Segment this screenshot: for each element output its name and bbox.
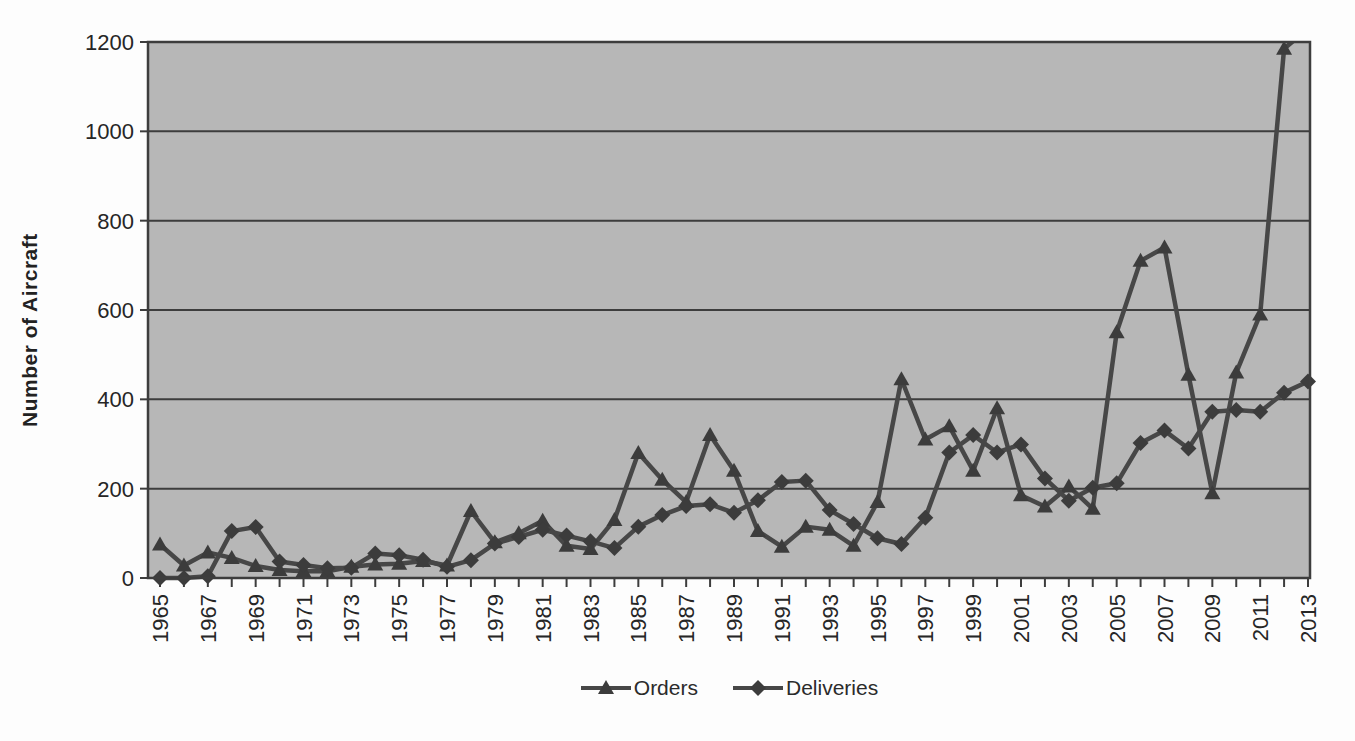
y-tick-label: 1000 [85,119,134,144]
y-tick-label: 200 [97,477,134,502]
x-tick-label: 1971 [292,594,317,643]
y-tick-label: 400 [97,387,134,412]
legend-label-orders: Orders [634,676,698,700]
orders-marker [1300,21,1316,35]
x-tick-label: 1969 [244,594,269,643]
y-tick-label: 600 [97,298,134,323]
legend-label-deliveries: Deliveries [786,676,878,700]
legend-item-deliveries: Deliveries [732,676,878,700]
x-tick-label: 1983 [579,594,604,643]
chart-legend: Orders Deliveries [148,676,1310,700]
x-tick-label: 1965 [148,594,173,643]
x-tick-label: 2007 [1153,594,1178,643]
chart-page: 0200400600800100012001965196719691971197… [0,0,1355,741]
y-tick-label: 0 [122,566,134,591]
x-tick-label: 2011 [1248,594,1273,641]
x-tick-label: 1995 [866,594,891,643]
x-tick-label: 2009 [1200,594,1225,643]
line-chart-figure: 0200400600800100012001965196719691971197… [0,0,1355,741]
x-tick-label: 1973 [339,594,364,643]
x-tick-label: 1981 [531,594,556,643]
y-axis-title: Number of Aircraft [18,158,42,503]
x-tick-label: 1967 [196,594,221,643]
y-tick-label: 800 [97,209,134,234]
x-tick-label: 1989 [722,594,747,643]
orders-line-marker-icon [580,679,632,697]
x-tick-label: 1987 [674,594,699,643]
x-tick-label: 1991 [770,594,795,643]
x-tick-label: 1977 [435,594,460,643]
deliveries-line-marker-icon [732,679,784,697]
x-tick-label: 1999 [961,594,986,643]
y-tick-label: 1200 [85,30,134,55]
x-tick-label: 1975 [387,594,412,643]
x-tick-label: 1985 [626,594,651,643]
x-tick-label: 2001 [1009,594,1034,643]
x-tick-label: 2005 [1105,594,1130,643]
x-tick-label: 1993 [818,594,843,643]
x-tick-label: 1979 [483,594,508,643]
legend-item-orders: Orders [580,676,698,700]
x-tick-label: 1997 [913,594,938,643]
x-tick-label: 2013 [1296,594,1321,643]
chart-canvas: 0200400600800100012001965196719691971197… [0,0,1355,741]
x-tick-label: 2003 [1057,594,1082,643]
